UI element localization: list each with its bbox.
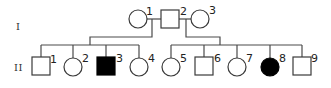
individual-I-2: 2 bbox=[161, 5, 187, 28]
individual-number: 7 bbox=[246, 52, 253, 65]
female-symbol bbox=[191, 10, 209, 28]
generation-label-II: II bbox=[14, 62, 23, 73]
individual-I-1: 1 bbox=[129, 5, 153, 28]
female-symbol bbox=[228, 58, 246, 76]
individual-number: 4 bbox=[148, 52, 155, 65]
male-symbol bbox=[293, 57, 311, 75]
individual-II-8: 8 bbox=[261, 52, 286, 76]
individual-II-6: 6 bbox=[195, 52, 221, 75]
individual-II-7: 7 bbox=[228, 52, 253, 76]
male-symbol bbox=[161, 10, 179, 28]
male-symbol bbox=[195, 57, 213, 75]
female-symbol bbox=[130, 58, 148, 76]
individual-number: 9 bbox=[311, 52, 318, 65]
affected-female-symbol bbox=[261, 58, 279, 76]
male-symbol bbox=[32, 57, 50, 75]
individual-number: 3 bbox=[209, 4, 216, 17]
individual-number: 2 bbox=[82, 52, 89, 65]
individual-II-1: 1 bbox=[32, 53, 57, 75]
individual-number: 1 bbox=[146, 5, 153, 18]
individual-number: 6 bbox=[214, 52, 221, 65]
generation-label-I: I bbox=[16, 21, 20, 32]
individual-number: 8 bbox=[279, 52, 286, 65]
individual-II-2: 2 bbox=[64, 52, 89, 76]
individual-number: 2 bbox=[180, 5, 187, 18]
individual-number: 5 bbox=[180, 52, 187, 65]
individual-II-3: 3 bbox=[97, 52, 123, 75]
individual-II-9: 9 bbox=[293, 52, 318, 75]
individual-II-4: 4 bbox=[130, 52, 155, 76]
individual-number: 1 bbox=[50, 53, 57, 66]
female-symbol bbox=[64, 58, 82, 76]
female-symbol bbox=[129, 10, 147, 28]
affected-male-symbol bbox=[97, 57, 115, 75]
female-symbol bbox=[162, 58, 180, 76]
individual-I-3: 3 bbox=[191, 4, 216, 28]
individual-number: 3 bbox=[116, 52, 123, 65]
individual-II-5: 5 bbox=[162, 52, 187, 76]
pedigree-diagram: I II 1 2 3 1 2 3 4 bbox=[0, 0, 331, 88]
